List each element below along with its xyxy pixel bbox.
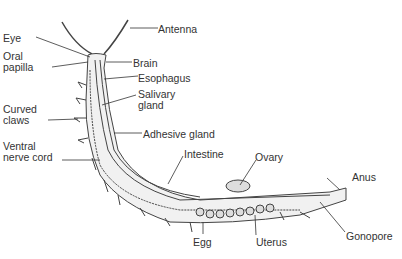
label-eye: Eye xyxy=(3,32,21,44)
label-curved-2: claws xyxy=(3,114,29,126)
label-esophagus: Esophagus xyxy=(138,72,191,84)
antenna-right xyxy=(104,20,128,54)
label-ovary: Ovary xyxy=(255,151,283,163)
label-oral-papilla-2: papilla xyxy=(3,61,33,73)
label-ventral-2: nerve cord xyxy=(3,151,53,163)
label-brain: Brain xyxy=(133,57,158,69)
label-egg: Egg xyxy=(193,236,212,248)
label-antenna: Antenna xyxy=(158,23,197,35)
body-outline xyxy=(86,54,346,223)
label-salivary-2: gland xyxy=(138,99,164,111)
label-adhesive-gland: Adhesive gland xyxy=(143,128,215,140)
ovary-shape xyxy=(226,180,250,192)
label-gonopore: Gonopore xyxy=(346,230,393,242)
antenna-left xyxy=(62,22,92,54)
label-anus: Anus xyxy=(352,171,376,183)
label-uterus: Uterus xyxy=(256,236,287,248)
label-intestine: Intestine xyxy=(184,148,224,160)
